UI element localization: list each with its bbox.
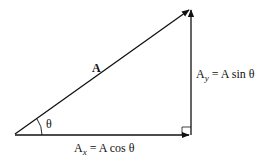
vector-a-arrow <box>15 10 189 134</box>
x-comp-prefix: A <box>74 141 83 155</box>
y-component-label: Ay = A sin θ <box>196 68 255 83</box>
angle-theta-label: θ <box>46 118 52 130</box>
right-angle-mark <box>182 127 191 135</box>
angle-arc <box>37 119 42 135</box>
y-comp-rest: = A sin θ <box>209 67 255 81</box>
x-comp-rest: = A cos θ <box>87 141 135 155</box>
vector-a-label: A <box>92 62 101 74</box>
y-comp-prefix: A <box>196 67 205 81</box>
x-component-label: Ax = A cos θ <box>74 142 135 157</box>
